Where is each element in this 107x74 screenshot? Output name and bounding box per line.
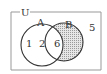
element-outside: 5 <box>89 22 95 33</box>
element-intersection: 6 <box>54 38 60 49</box>
universe-label: U <box>21 7 29 18</box>
element-only-a-1: 1 <box>26 38 32 49</box>
set-a-label: A <box>36 17 45 28</box>
element-only-a-2: 2 <box>39 38 45 49</box>
venn-diagram: U A B 5 1 2 6 <box>0 0 107 74</box>
set-b-label: B <box>65 19 72 30</box>
